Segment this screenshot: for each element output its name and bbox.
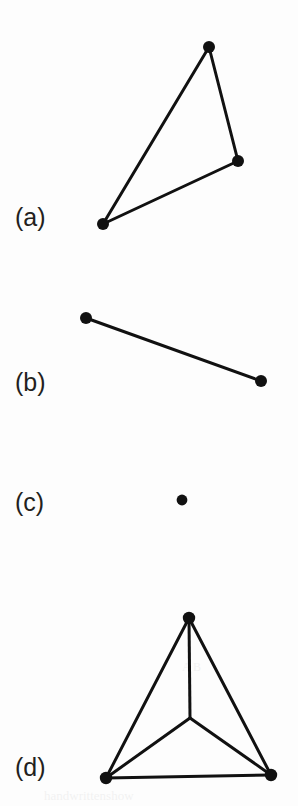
panel-label-d: (d) <box>15 755 46 780</box>
d-edge-top-center <box>189 618 190 718</box>
d-edge-top-bottomleft <box>106 618 189 778</box>
d-bottom-right <box>265 769 277 781</box>
d-edge-bottomright-center <box>190 718 271 775</box>
edges-layer <box>86 47 271 778</box>
panel-label-a: (a) <box>15 205 46 230</box>
b-left <box>80 312 92 324</box>
a-edge-bottom-top <box>103 47 209 224</box>
b-edge-left-right <box>86 318 261 381</box>
panel-label-b: (b) <box>15 370 46 395</box>
graph-figure: handwrittenshowA B (a) (b) (c) (d) <box>0 0 298 806</box>
d-edge-top-bottomright <box>189 618 271 775</box>
d-top <box>183 612 195 624</box>
a-edge-top-right <box>209 47 238 161</box>
a-right <box>232 155 244 167</box>
d-bottom-left <box>100 772 112 784</box>
a-bottom <box>97 218 109 230</box>
nodes-layer <box>80 41 277 784</box>
graph-canvas <box>0 0 298 806</box>
panel-label-c: (c) <box>15 490 44 515</box>
b-right <box>255 375 267 387</box>
d-edge-bottomleft-center <box>106 718 190 778</box>
a-top <box>203 41 215 53</box>
d-edge-bottomleft-bottomright <box>106 775 271 778</box>
c-single <box>177 495 188 506</box>
